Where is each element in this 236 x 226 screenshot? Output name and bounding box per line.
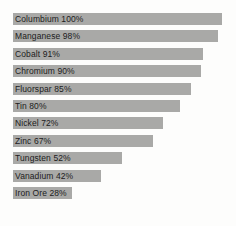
bar-row: Manganese 98% xyxy=(13,30,218,42)
bar-label: Iron Ore 28% xyxy=(13,187,67,199)
bar-row: Columbium 100% xyxy=(13,13,222,25)
bar-label: Columbium 100% xyxy=(13,13,84,25)
bar-label: Nickel 72% xyxy=(13,117,59,129)
bar-label: Cobalt 91% xyxy=(13,48,60,60)
bar-label: Tin 80% xyxy=(13,100,47,112)
bar-row: Zinc 67% xyxy=(13,135,153,147)
bar-row: Chromium 90% xyxy=(13,65,201,77)
bar-label: Zinc 67% xyxy=(13,135,51,147)
bar-label: Vanadium 42% xyxy=(13,170,73,182)
bar-row: Iron Ore 28% xyxy=(13,187,72,199)
bar-label: Chromium 90% xyxy=(13,65,75,77)
bar-row: Fluorspar 85% xyxy=(13,83,191,95)
bar-row: Vanadium 42% xyxy=(13,170,101,182)
bar-row: Nickel 72% xyxy=(13,117,163,129)
bar-label: Manganese 98% xyxy=(13,30,80,42)
bar-row: Tin 80% xyxy=(13,100,180,112)
bar-row: Cobalt 91% xyxy=(13,48,203,60)
horizontal-bar-chart: Columbium 100%Manganese 98%Cobalt 91%Chr… xyxy=(0,0,236,226)
bar-row: Tungsten 52% xyxy=(13,152,122,164)
bar-label: Tungsten 52% xyxy=(13,152,71,164)
bar-label: Fluorspar 85% xyxy=(13,83,72,95)
